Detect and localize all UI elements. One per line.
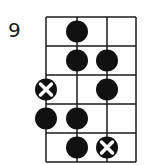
fretboard-diagram [0,0,146,165]
note-dot [66,137,88,159]
note-dot [66,21,88,43]
note-dot [96,50,118,72]
x-mark-icon [35,79,57,101]
fretboard-grid [46,17,136,162]
note-dot [96,79,118,101]
x-mark-icon [96,137,118,159]
note-dot [66,108,88,130]
note-dot [66,50,88,72]
note-dot [35,108,57,130]
